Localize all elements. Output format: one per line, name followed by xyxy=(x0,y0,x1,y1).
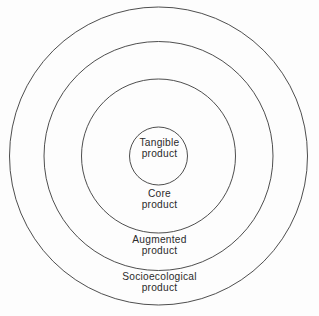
concentric-product-diagram: Tangible product Core product Augmented … xyxy=(0,0,319,316)
label-augmented-product: Augmented product xyxy=(0,235,319,257)
label-socioecological-product: Socioecological product xyxy=(0,272,319,294)
label-socioecological-line-2: product xyxy=(0,283,319,294)
label-tangible-line-2: product xyxy=(0,149,319,160)
label-core-product: Core product xyxy=(0,189,319,211)
label-augmented-line-2: product xyxy=(0,246,319,257)
label-core-line-2: product xyxy=(0,200,319,211)
label-tangible-product: Tangible product xyxy=(0,138,319,160)
